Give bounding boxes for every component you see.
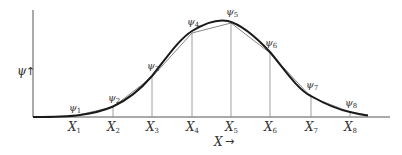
x-axis-symbol: X [213, 135, 223, 149]
x-tick-label: X8 [343, 120, 357, 135]
psi-label: ψ2 [108, 92, 120, 105]
x-axis-label: X → [213, 135, 234, 149]
x-tick-label: X4 [185, 120, 200, 135]
psi-label: ψ1 [69, 102, 81, 115]
x-tick-label: X3 [145, 120, 159, 135]
linear-interpolation-polyline [33, 23, 368, 117]
psi-label: ψ7 [306, 79, 318, 92]
smooth-curve [33, 20, 368, 117]
psi-label: ψ6 [265, 37, 278, 50]
up-arrow-icon: ↑ [26, 65, 35, 78]
x-tick-label: X7 [304, 120, 318, 135]
x-tick-label: X6 [263, 120, 278, 135]
right-arrow-icon: → [225, 135, 234, 148]
x-tick-label: X2 [106, 120, 120, 135]
x-tick-label: X1 [67, 120, 81, 135]
x-tick-labels: X1 X2 X3 X4 X5 X6 X7 X8 [67, 120, 357, 135]
psi-label: ψ3 [147, 60, 159, 73]
y-axis-label: ψ ↑ [17, 64, 35, 78]
psi-label: ψ4 [187, 16, 200, 29]
piecewise-approximation-diagram: ψ ↑ X → X1 X2 X3 X4 X5 X6 X7 X8 ψ1 ψ2 ψ3… [0, 0, 402, 155]
psi-label: ψ5 [226, 6, 238, 19]
x-tick-label: X5 [224, 120, 238, 135]
psi-label: ψ8 [345, 97, 357, 110]
